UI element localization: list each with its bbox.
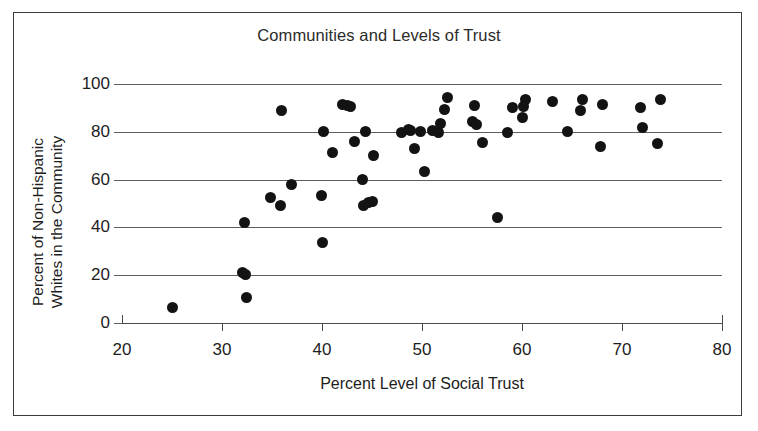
data-point — [502, 127, 513, 138]
data-point — [635, 102, 646, 113]
data-point — [286, 179, 297, 190]
x-tick-label-20: 20 — [92, 340, 152, 360]
x-tick-label-50: 50 — [392, 340, 452, 360]
x-tick-mark-30 — [222, 323, 223, 331]
data-point — [327, 147, 338, 158]
x-tick-mark-70 — [622, 323, 623, 331]
data-point — [469, 100, 480, 111]
x-tick-label-60: 60 — [492, 340, 552, 360]
data-point — [367, 196, 378, 207]
x-tick-label-40: 40 — [292, 340, 352, 360]
data-point — [435, 118, 446, 129]
y-tick-label-100: 100 — [58, 74, 110, 94]
data-point — [595, 141, 606, 152]
data-point — [415, 126, 426, 137]
data-point — [360, 126, 371, 137]
data-point — [477, 137, 488, 148]
data-point — [167, 302, 178, 313]
y-tick-label-20: 20 — [58, 265, 110, 285]
y-axis-title-line1: Percent of Non-Hispanic — [28, 107, 47, 337]
x-axis-title: Percent Level of Social Trust — [122, 375, 722, 393]
x-tick-mark-80 — [722, 323, 723, 331]
data-point — [575, 105, 586, 116]
data-point — [433, 127, 444, 138]
data-point — [439, 104, 450, 115]
y-tick-label-0: 0 — [58, 313, 110, 333]
data-point — [368, 150, 379, 161]
data-point — [471, 119, 482, 130]
data-point — [442, 92, 453, 103]
data-point — [409, 143, 420, 154]
data-point — [492, 212, 503, 223]
x-tick-label-80: 80 — [692, 340, 752, 360]
x-tick-mark-50 — [422, 323, 423, 331]
data-point — [345, 101, 356, 112]
data-point — [419, 166, 430, 177]
data-point — [241, 292, 252, 303]
data-point — [240, 269, 251, 280]
data-point — [357, 174, 368, 185]
data-point — [316, 190, 327, 201]
x-tick-mark-40 — [322, 323, 323, 331]
data-point — [317, 237, 328, 248]
gridline-y-60 — [122, 180, 722, 181]
gridline-y-40 — [122, 227, 722, 228]
data-point — [276, 105, 287, 116]
y-tick-label-60: 60 — [58, 170, 110, 190]
x-axis-right-cap — [722, 315, 723, 323]
plot-area — [122, 84, 722, 323]
data-point — [405, 125, 416, 136]
data-point — [562, 126, 573, 137]
x-tick-label-30: 30 — [192, 340, 252, 360]
data-point — [577, 94, 588, 105]
x-tick-label-70: 70 — [592, 340, 652, 360]
gridline-y-20 — [122, 275, 722, 276]
y-tick-label-40: 40 — [58, 217, 110, 237]
y-tick-label-80: 80 — [58, 122, 110, 142]
chart-title: Communities and Levels of Trust — [0, 26, 758, 45]
data-point — [637, 122, 648, 133]
data-point — [517, 112, 528, 123]
data-point — [275, 200, 286, 211]
x-tick-mark-60 — [522, 323, 523, 331]
data-point — [507, 102, 518, 113]
data-point — [597, 99, 608, 110]
data-point — [652, 138, 663, 149]
data-point — [547, 96, 558, 107]
data-point — [318, 126, 329, 137]
data-point — [520, 94, 531, 105]
chart-figure: Communities and Levels of Trust Percent … — [0, 0, 758, 431]
data-point — [655, 94, 666, 105]
data-point — [239, 217, 250, 228]
data-point — [265, 192, 276, 203]
gridline-y-100 — [122, 84, 722, 85]
data-point — [349, 136, 360, 147]
